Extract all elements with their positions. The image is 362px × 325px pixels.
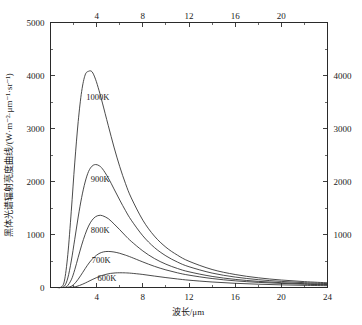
curve-label-800K: 800K (91, 225, 111, 235)
blackbody-radiance-chart: 4488121216162020240100010002000200030003… (0, 0, 362, 325)
y-tick-label-right: 4000 (334, 71, 353, 81)
y-tick-label-left: 3000 (27, 124, 46, 134)
x-tick-label-top: 20 (277, 11, 287, 21)
x-tick-label-bottom: 24 (323, 292, 333, 302)
y-tick-label-left: 0 (40, 283, 45, 293)
chart-svg: 4488121216162020240100010002000200030003… (0, 0, 362, 325)
axis-ticks (51, 23, 328, 288)
y-tick-label-left: 4000 (27, 71, 46, 81)
plot-frame (51, 23, 328, 288)
x-tick-label-bottom: 8 (141, 292, 146, 302)
y-tick-label-right: 2000 (334, 177, 353, 187)
curve-label-600K: 600K (98, 273, 118, 283)
axes-frame (51, 23, 328, 288)
x-tick-label-top: 4 (94, 11, 99, 21)
curve-label-1000K: 1000K (86, 92, 110, 102)
x-axis-title: 波长/μm (172, 306, 204, 317)
y-tick-label-right: 3000 (334, 124, 353, 134)
y-tick-label-left: 2000 (27, 177, 46, 187)
curve-label-700K: 700K (92, 255, 112, 265)
x-tick-label-bottom: 20 (277, 292, 287, 302)
y-tick-label-right: 1000 (334, 230, 353, 240)
y-tick-label-left: 5000 (27, 18, 46, 28)
x-tick-label-top: 16 (231, 11, 241, 21)
x-tick-label-top: 8 (141, 11, 146, 21)
x-tick-label-bottom: 16 (231, 292, 241, 302)
x-tick-label-bottom: 4 (94, 292, 99, 302)
curve-label-900K: 900K (91, 174, 111, 184)
curve-series-labels: 1000K900K800K700K600K (86, 92, 117, 282)
x-tick-label-bottom: 12 (185, 292, 194, 302)
x-tick-label-top: 12 (185, 11, 194, 21)
y-axis-title: 黑体光谱辐射亮度曲线/(W·m⁻²·μm⁻¹·sr⁻¹) (3, 73, 14, 237)
y-tick-label-left: 1000 (27, 230, 46, 240)
